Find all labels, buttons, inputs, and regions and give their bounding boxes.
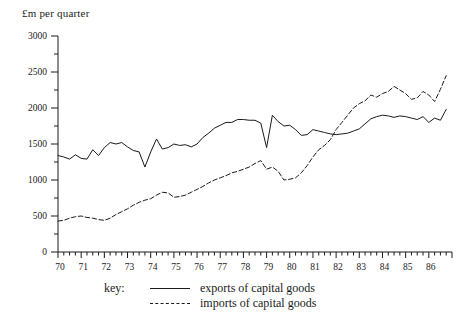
svg-text:74: 74 xyxy=(148,262,158,272)
svg-text:1000: 1000 xyxy=(28,175,47,185)
svg-text:77: 77 xyxy=(217,262,227,272)
chart-container: £m per quarter 0500100015002000250030007… xyxy=(0,0,464,327)
svg-text:85: 85 xyxy=(403,262,413,272)
series-line-imports xyxy=(58,76,446,221)
svg-text:76: 76 xyxy=(194,262,204,272)
legend-key-label: key: xyxy=(104,281,150,296)
svg-text:73: 73 xyxy=(125,262,135,272)
series-line-exports xyxy=(58,109,446,167)
svg-text:83: 83 xyxy=(357,262,367,272)
svg-text:0: 0 xyxy=(42,247,47,257)
legend-row-exports: key: exports of capital goods xyxy=(104,281,316,296)
svg-text:81: 81 xyxy=(310,262,320,272)
svg-text:1500: 1500 xyxy=(28,139,47,149)
svg-text:70: 70 xyxy=(55,262,65,272)
legend-swatch-dashed xyxy=(150,303,190,304)
svg-text:80: 80 xyxy=(287,262,297,272)
chart-legend: key: exports of capital goods imports of… xyxy=(104,281,316,311)
chart-plot-area: 0500100015002000250030007071727374757677… xyxy=(0,0,464,327)
svg-text:71: 71 xyxy=(78,262,88,272)
svg-text:79: 79 xyxy=(264,262,274,272)
svg-text:82: 82 xyxy=(333,262,343,272)
legend-label-exports: exports of capital goods xyxy=(200,281,315,296)
svg-text:86: 86 xyxy=(426,262,436,272)
legend-row-imports: imports of capital goods xyxy=(104,296,316,311)
legend-label-imports: imports of capital goods xyxy=(200,296,316,311)
svg-text:3000: 3000 xyxy=(28,31,47,41)
svg-text:2500: 2500 xyxy=(28,67,47,77)
svg-text:2000: 2000 xyxy=(28,103,47,113)
svg-text:500: 500 xyxy=(33,211,48,221)
svg-text:75: 75 xyxy=(171,262,181,272)
svg-text:72: 72 xyxy=(102,262,112,272)
svg-text:78: 78 xyxy=(241,262,251,272)
legend-swatch-solid xyxy=(150,288,190,289)
svg-text:84: 84 xyxy=(380,262,390,272)
